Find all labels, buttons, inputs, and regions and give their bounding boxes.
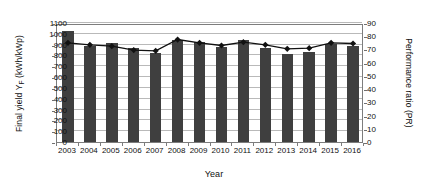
x-axis-tick-label: 2005	[100, 146, 122, 155]
x-axis-tick-mark	[122, 143, 123, 146]
x-axis-tick-mark	[166, 143, 167, 146]
y-axis-left-tick-label: 900	[33, 42, 67, 50]
x-axis-tick-label: 2007	[144, 146, 166, 155]
x-axis-tick-label: 2016	[341, 146, 363, 155]
x-axis-tick-label: 2009	[188, 146, 210, 155]
gridline	[57, 22, 362, 23]
x-axis-tick-mark	[56, 143, 57, 146]
line-marker-diamond	[87, 42, 93, 48]
y-axis-left-tick-mark	[52, 132, 55, 133]
y-axis-left-tick-mark	[52, 35, 55, 36]
y-axis-left-title: Final yield YF (kWh/kWp)	[14, 19, 25, 149]
line-series	[57, 25, 364, 144]
x-axis-tick-mark	[100, 143, 101, 146]
line-marker-diamond	[175, 36, 181, 42]
x-axis-tick-label: 2003	[56, 146, 78, 155]
x-axis-tick-mark	[275, 143, 276, 146]
y-axis-right-tick-label: 80	[367, 33, 389, 41]
chart-container: Final yield YF (kWh/kWp) Performance rat…	[0, 0, 428, 186]
y-axis-left-tick-mark	[52, 111, 55, 112]
x-axis-tick-mark	[144, 143, 145, 146]
y-axis-left-title-main: Final yield Y	[14, 85, 24, 132]
line-marker-diamond	[328, 40, 334, 46]
x-axis-title: Year	[0, 169, 428, 179]
y-axis-right-title: Performance ratio (PR)	[404, 18, 414, 148]
x-axis-tick-mark	[231, 143, 232, 146]
y-axis-right-tick-label: 30	[367, 99, 389, 107]
x-axis-ticks: 2003200420052006200720082009201020112012…	[56, 146, 363, 160]
x-axis-tick-label: 2013	[275, 146, 297, 155]
y-axis-right-tick-mark	[364, 37, 367, 38]
x-axis-tick-mark	[297, 143, 298, 146]
x-axis-tick-mark	[188, 143, 189, 146]
y-axis-left-tick-mark	[52, 100, 55, 101]
y-axis-left-tick-label: 600	[33, 74, 67, 82]
y-axis-left-tick-label: 300	[33, 107, 67, 115]
y-axis-left-tick-label: 100	[33, 128, 67, 136]
y-axis-right-tick-mark	[364, 103, 367, 104]
line-marker-diamond	[240, 39, 246, 45]
x-axis-tick-mark	[319, 143, 320, 146]
y-axis-left-tick-label: 800	[33, 52, 67, 60]
y-axis-right-tick-mark	[364, 90, 367, 91]
x-axis-tick-mark	[210, 143, 211, 146]
y-axis-left-title-unit: (kWh/kWp)	[14, 35, 24, 80]
x-axis-tick-mark	[363, 143, 364, 146]
line-marker-diamond	[284, 46, 290, 52]
y-axis-right-tick-label: 0	[367, 139, 389, 147]
y-axis-left-title-subscript: F	[18, 80, 25, 84]
x-axis-tick-label: 2010	[210, 146, 232, 155]
y-axis-left-tick-label: 700	[33, 63, 67, 71]
y-axis-right-tick-mark	[364, 24, 367, 25]
y-axis-left-tick-label: 1100	[33, 20, 67, 28]
y-axis-right-tick-label: 90	[367, 20, 389, 28]
y-axis-right-tick-label: 40	[367, 86, 389, 94]
y-axis-right-tick-label: 70	[367, 46, 389, 54]
y-axis-right-tick-mark	[364, 77, 367, 78]
y-axis-right-tick-mark	[364, 50, 367, 51]
x-axis-tick-label: 2008	[166, 146, 188, 155]
y-axis-right-tick-label: 20	[367, 113, 389, 121]
x-axis-tick-mark	[341, 143, 342, 146]
x-axis-tick-mark	[253, 143, 254, 146]
line-marker-diamond	[306, 45, 312, 51]
y-axis-right-tick-mark	[364, 130, 367, 131]
line-marker-diamond	[153, 48, 159, 54]
x-axis-tick-label: 2015	[319, 146, 341, 155]
y-axis-left-tick-label: 500	[33, 85, 67, 93]
y-axis-left-tick-mark	[52, 89, 55, 90]
x-axis-tick-label: 2004	[78, 146, 100, 155]
y-axis-right-tick-mark	[364, 143, 367, 144]
y-axis-left-tick-mark	[52, 24, 55, 25]
y-axis-right-tick-label: 50	[367, 73, 389, 81]
y-axis-left-tick-mark	[52, 143, 55, 144]
y-axis-left-tick-label: 200	[33, 117, 67, 125]
x-axis-tick-mark	[78, 143, 79, 146]
y-axis-left-tick-mark	[52, 67, 55, 68]
x-axis-tick-label: 2011	[231, 146, 253, 155]
y-axis-right-tick-mark	[364, 64, 367, 65]
y-axis-left-tick-mark	[52, 46, 55, 47]
x-axis-tick-label: 2014	[297, 146, 319, 155]
y-axis-right-tick-label: 10	[367, 126, 389, 134]
y-axis-left-tick-mark	[52, 78, 55, 79]
line-marker-diamond	[131, 47, 137, 53]
x-axis-tick-label: 2012	[253, 146, 275, 155]
y-axis-left-tick-label: 400	[33, 96, 67, 104]
y-axis-left-tick-mark	[52, 121, 55, 122]
plot-area	[56, 24, 363, 143]
line-marker-diamond	[350, 40, 356, 46]
line-marker-diamond	[196, 40, 202, 46]
y-axis-right-tick-mark	[364, 117, 367, 118]
line-marker-diamond	[109, 43, 115, 49]
line-marker-diamond	[262, 42, 268, 48]
line-marker-diamond	[218, 42, 224, 48]
y-axis-left-tick-mark	[52, 56, 55, 57]
x-axis-tick-label: 2006	[122, 146, 144, 155]
y-axis-right-tick-label: 60	[367, 60, 389, 68]
y-axis-left-tick-label: 1000	[33, 31, 67, 39]
